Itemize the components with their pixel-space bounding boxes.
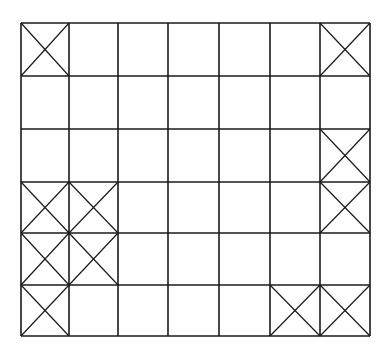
grid-cell bbox=[118, 23, 168, 76]
grid-cell bbox=[270, 129, 320, 182]
grid-cell bbox=[219, 23, 270, 76]
grid-cell bbox=[69, 76, 118, 129]
crossed-cell bbox=[21, 233, 69, 285]
crossed-cell bbox=[69, 182, 118, 233]
crossed-cell bbox=[320, 23, 370, 76]
crossed-cell bbox=[21, 23, 69, 76]
grid-cell bbox=[21, 76, 69, 129]
grid-cell bbox=[118, 76, 168, 129]
grid-cell bbox=[270, 23, 320, 76]
grid-cell bbox=[168, 129, 219, 182]
crossed-cell bbox=[21, 285, 69, 336]
crossed-cell bbox=[270, 285, 320, 336]
grid-cell bbox=[270, 233, 320, 285]
grid-cell bbox=[270, 182, 320, 233]
grid-cell bbox=[69, 129, 118, 182]
grid-cell bbox=[219, 233, 270, 285]
crossed-cell bbox=[320, 182, 370, 233]
grid-cell bbox=[69, 23, 118, 76]
grid-cell bbox=[320, 233, 370, 285]
grid-cell bbox=[168, 233, 219, 285]
grid-cell bbox=[118, 285, 168, 336]
grid-cell bbox=[168, 182, 219, 233]
grid-cell bbox=[118, 233, 168, 285]
grid-cell bbox=[21, 129, 69, 182]
grid-cell bbox=[320, 76, 370, 129]
grid-cell bbox=[219, 76, 270, 129]
grid-cell bbox=[168, 285, 219, 336]
grid-cell bbox=[168, 76, 219, 129]
grid-cell bbox=[219, 129, 270, 182]
grid-cell bbox=[118, 182, 168, 233]
grid-cell bbox=[270, 76, 320, 129]
grid-cell bbox=[118, 129, 168, 182]
grid-cell bbox=[168, 23, 219, 76]
grid-cell bbox=[69, 285, 118, 336]
crossed-cell bbox=[69, 233, 118, 285]
crossed-grid-diagram bbox=[0, 0, 385, 356]
crossed-cell bbox=[320, 129, 370, 182]
grid-cells bbox=[21, 23, 370, 336]
grid-cell bbox=[219, 285, 270, 336]
crossed-cell bbox=[21, 182, 69, 233]
crossed-cell bbox=[320, 285, 370, 336]
grid-cell bbox=[219, 182, 270, 233]
